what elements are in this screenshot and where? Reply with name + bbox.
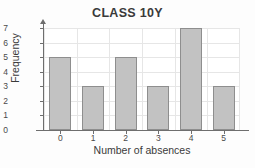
x-tick-label: 4 <box>181 133 201 143</box>
y-tick-mark <box>40 130 44 131</box>
y-tick-label: 3 <box>0 81 8 91</box>
x-tick-mark <box>93 130 94 134</box>
y-tick-mark <box>40 43 44 44</box>
bar <box>115 57 137 130</box>
y-tick-label: 7 <box>0 23 8 33</box>
y-tick-mark <box>40 101 44 102</box>
bar <box>180 28 202 130</box>
x-tick-label: 5 <box>214 133 234 143</box>
bar <box>147 86 169 130</box>
x-tick-mark <box>126 130 127 134</box>
y-tick-mark <box>40 28 44 29</box>
y-tick-label: 0 <box>0 125 8 135</box>
y-tick-label: 2 <box>0 96 8 106</box>
y-tick-label: 4 <box>0 67 8 77</box>
x-tick-label: 3 <box>148 133 168 143</box>
chart-title: CLASS 10Y <box>0 6 255 20</box>
y-tick-label: 1 <box>0 110 8 120</box>
x-tick-label: 2 <box>116 133 136 143</box>
x-tick-label: 1 <box>83 133 103 143</box>
x-tick-mark <box>60 130 61 134</box>
y-tick-label: 6 <box>0 38 8 48</box>
bar <box>49 57 71 130</box>
bar <box>213 86 235 130</box>
bar-series <box>44 28 240 130</box>
x-axis-title: Number of absences <box>44 144 240 156</box>
y-axis-title: Frequency <box>9 18 21 98</box>
y-tick-mark <box>40 72 44 73</box>
x-tick-mark <box>191 130 192 134</box>
plot-area <box>44 28 240 130</box>
y-tick-mark <box>40 86 44 87</box>
bar <box>82 86 104 130</box>
y-tick-mark <box>40 57 44 58</box>
x-tick-label: 0 <box>50 133 70 143</box>
y-tick-label: 5 <box>0 52 8 62</box>
x-tick-mark <box>224 130 225 134</box>
x-tick-mark <box>158 130 159 134</box>
y-tick-mark <box>40 115 44 116</box>
bar-chart: CLASS 10Y 01234567 012345 Number of abse… <box>0 0 255 168</box>
x-axis-line <box>36 130 249 131</box>
